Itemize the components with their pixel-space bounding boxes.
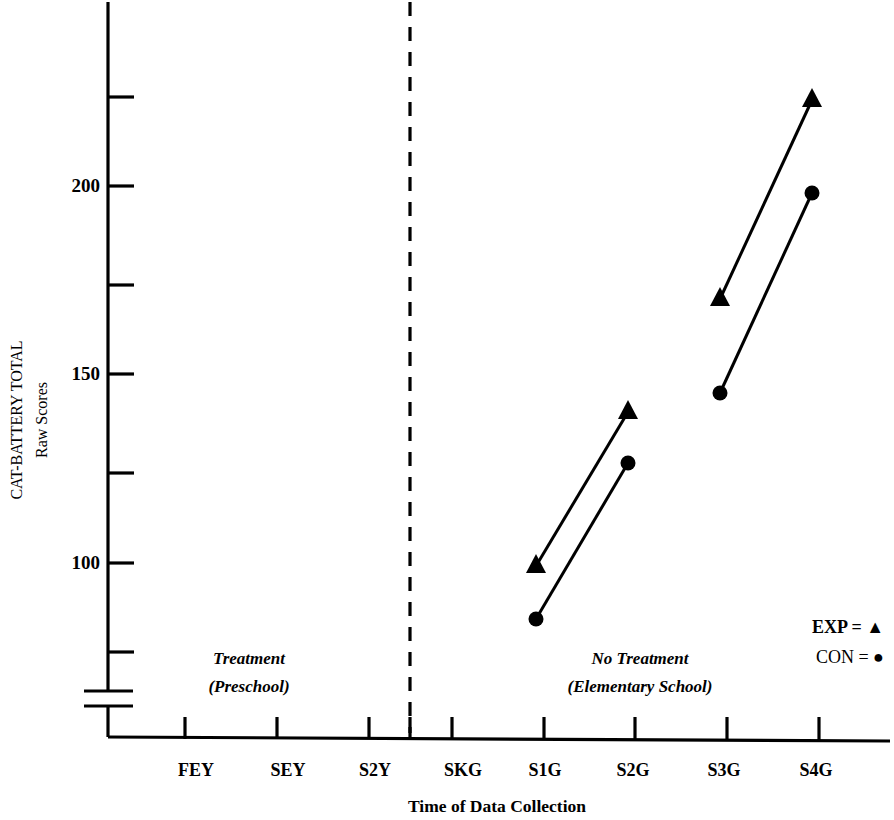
con-point-s3g [713,386,728,401]
x-axis-label-s4g: S4G [799,760,832,780]
chart-canvas: 200 150 100 CAT-BATTERY TOTAL Raw Scores… [0,0,894,820]
y-tick-label-100: 100 [72,552,101,573]
legend-item-exp: EXP = ▲ [812,617,884,637]
exp-point-s2g [618,400,638,419]
exp-segment-s3g-s4g [720,100,812,299]
con-segment-s3g-s4g [720,193,812,393]
con-point-s1g [529,612,544,627]
x-axis-label-sey: SEY [270,760,305,780]
con-point-s2g [621,456,636,471]
x-axis-line [108,737,890,741]
x-axis-label-fey: FEY [178,760,214,780]
exp-point-s4g [802,88,822,107]
annotation-treatment-line2: (Preschool) [208,677,289,696]
x-axis-label-s2y: S2Y [359,760,391,780]
legend-item-con: CON = ● [816,647,884,667]
x-axis-label-s1g: S1G [528,760,561,780]
x-axis-label-s3g: S3G [707,760,740,780]
x-axis-label-s2g: S2G [616,760,649,780]
y-axis-title-line1: CAT-BATTERY TOTAL [8,340,25,499]
y-axis: 200 150 100 CAT-BATTERY TOTAL Raw Scores [8,2,134,737]
annotation-treatment: Treatment (Preschool) [208,649,289,696]
legend: EXP = ▲ CON = ● [812,617,884,667]
chart-figure: 200 150 100 CAT-BATTERY TOTAL Raw Scores… [0,0,894,820]
annotation-no-treatment: No Treatment (Elementary School) [568,649,713,696]
y-tick-label-200: 200 [72,175,101,196]
y-axis-title-line2: Raw Scores [33,382,50,458]
series-con [529,186,820,627]
y-tick-label-150: 150 [72,363,101,384]
annotation-no-treatment-line1: No Treatment [590,649,689,668]
annotation-treatment-line1: Treatment [213,649,286,668]
x-axis-label-skg: SKG [444,760,482,780]
con-point-s4g [805,186,820,201]
exp-point-s3g [710,287,730,306]
x-axis-title: Time of Data Collection [408,796,586,816]
x-axis: FEY SEY S2Y SKG S1G S2G S3G S4G Time of … [108,717,890,816]
series-exp [526,88,822,573]
annotation-no-treatment-line2: (Elementary School) [568,677,713,696]
